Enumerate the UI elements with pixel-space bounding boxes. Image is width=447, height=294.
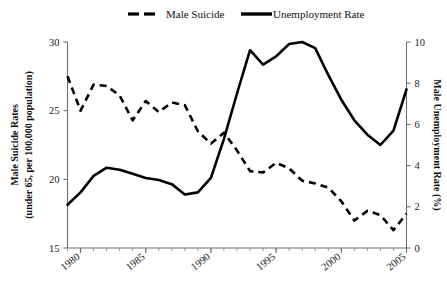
- chart-container: 152025300246810198019851990199520002005M…: [0, 0, 447, 294]
- y2-axis-tick-label: 6: [415, 119, 420, 130]
- x-axis-tick-label: 1995: [254, 251, 277, 273]
- y2-axis-tick-label: 8: [415, 78, 420, 89]
- y2-axis-tick-label: 10: [415, 37, 426, 48]
- y-axis-tick-label: 15: [49, 243, 60, 254]
- y-axis-tick-label: 25: [49, 105, 60, 116]
- y2-axis-tick-label: 2: [415, 201, 420, 212]
- left-axis-title-line1: Male Suicide Rates: [9, 104, 20, 186]
- legend-label-unemployment-rate: Unemployment Rate: [273, 8, 364, 20]
- x-axis-tick-label: 1985: [124, 251, 147, 273]
- y2-axis-tick-label: 4: [415, 160, 421, 171]
- x-axis-tick-label: 1990: [189, 251, 212, 273]
- y-axis-tick-label: 20: [49, 174, 60, 185]
- series-line-male-suicide: [68, 76, 407, 230]
- x-axis-tick-label: 1980: [58, 251, 81, 273]
- y2-axis-tick-label: 0: [415, 243, 420, 254]
- y-axis-tick-label: 30: [49, 37, 60, 48]
- left-axis-title-line2: (under 65, per 100,000 population): [23, 71, 35, 218]
- x-axis-tick-label: 2000: [319, 251, 342, 273]
- dual-axis-line-chart: 152025300246810198019851990199520002005M…: [0, 0, 447, 294]
- right-axis-title: Male Unemployment Rate (%): [431, 79, 443, 210]
- series-line-unemployment-rate: [68, 42, 407, 205]
- legend-label-male-suicide: Male Suicide: [166, 8, 224, 20]
- x-axis-tick-label: 2005: [384, 251, 407, 273]
